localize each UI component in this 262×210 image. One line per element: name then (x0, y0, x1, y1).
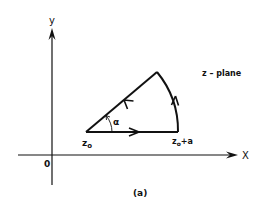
arrow-down-left-icon (124, 100, 134, 109)
y-axis-label: y (49, 15, 55, 26)
contour (86, 72, 178, 132)
x-axis-label: X (242, 150, 249, 161)
end-point-label: zo+a (172, 137, 193, 147)
origin-label: 0 (44, 159, 50, 169)
start-point-label: zo (82, 138, 92, 150)
contour-diagram: y X 0 α zo zo+a z – plane (a) (0, 0, 262, 210)
angle-label: α (113, 117, 119, 127)
figure-caption: (a) (133, 188, 147, 198)
segment-apex-to-z0 (86, 72, 157, 132)
arc-segment (157, 72, 178, 132)
plane-label: z – plane (202, 69, 242, 78)
x-axis: X (18, 150, 249, 161)
angle-arc (106, 116, 112, 133)
